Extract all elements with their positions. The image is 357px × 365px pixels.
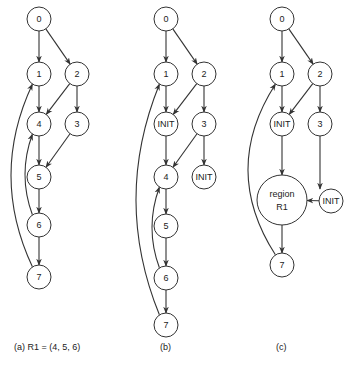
graph-node: 2 <box>308 62 332 86</box>
node-label: 5 <box>163 221 168 231</box>
panel-caption: (a) R1 = (4, 5, 6) <box>14 342 80 352</box>
back-edge-arrow <box>248 84 275 255</box>
graph-node: 0 <box>27 7 51 31</box>
node-circle <box>257 175 307 225</box>
node-label: 7 <box>163 320 168 330</box>
graph-node: 0 <box>154 7 178 31</box>
node-label: 7 <box>36 272 41 282</box>
edge-arrow <box>173 84 196 115</box>
node-label: INIT <box>323 196 341 206</box>
node-label: 0 <box>279 14 284 24</box>
edge-arrow <box>173 134 197 167</box>
panel-c-graph: 012INIT3regionR1INIT7(c) <box>248 7 343 352</box>
graph-node: 7 <box>27 265 51 289</box>
node-label: 0 <box>163 14 168 24</box>
panel-a-graph: 01243567(a) R1 = (4, 5, 6) <box>11 7 89 352</box>
node-label: INIT <box>158 119 176 129</box>
graph-node: INIT <box>154 112 178 136</box>
graph-node: 2 <box>65 62 89 86</box>
graph-node: 7 <box>270 253 294 277</box>
graph-node: 3 <box>65 112 89 136</box>
graph-node: 1 <box>270 62 294 86</box>
node-label: 4 <box>163 172 168 182</box>
graph-node: 6 <box>27 213 51 237</box>
node-label: INIT <box>196 172 214 182</box>
graph-node: INIT <box>192 165 216 189</box>
graph-node: 5 <box>154 214 178 238</box>
graph-node: 7 <box>154 313 178 337</box>
node-label: 4 <box>36 119 41 129</box>
panel-b-graph: 012INIT34INIT567(b) <box>136 7 216 352</box>
graph-node: 3 <box>308 112 332 136</box>
node-label: INIT <box>274 119 292 129</box>
node-label: 7 <box>279 260 284 270</box>
node-label: 6 <box>163 273 168 283</box>
node-label: 1 <box>163 69 168 79</box>
edge-arrow <box>289 29 313 64</box>
node-label: region <box>269 189 294 199</box>
graph-node: INIT <box>270 112 294 136</box>
node-label: 2 <box>201 69 206 79</box>
node-label: 3 <box>317 119 322 129</box>
node-label-secondary: R1 <box>276 202 288 212</box>
node-label: 3 <box>201 119 206 129</box>
node-label: 3 <box>74 119 79 129</box>
graph-node: 1 <box>27 62 51 86</box>
graph-node: 1 <box>154 62 178 86</box>
node-label: 2 <box>74 69 79 79</box>
graph-node: 4 <box>154 165 178 189</box>
graph-node: 3 <box>192 112 216 136</box>
graph-node: 6 <box>154 266 178 290</box>
edge-arrow <box>46 84 69 115</box>
edge-arrow <box>173 29 197 64</box>
graph-node: 4 <box>27 112 51 136</box>
edge-arrow <box>289 84 312 115</box>
node-label: 1 <box>36 69 41 79</box>
edge-arrow <box>46 29 70 64</box>
panel-caption: (c) <box>276 342 287 352</box>
node-label: 1 <box>279 69 284 79</box>
graph-node: regionR1 <box>257 175 307 225</box>
node-label: 2 <box>317 69 322 79</box>
node-label: 5 <box>36 172 41 182</box>
edge-arrow <box>46 134 70 167</box>
graph-node: 5 <box>27 165 51 189</box>
panel-caption: (b) <box>160 342 171 352</box>
graph-node: 0 <box>270 7 294 31</box>
graph-node: 2 <box>192 62 216 86</box>
flow-graph-figure: 01243567(a) R1 = (4, 5, 6) 012INIT34INIT… <box>0 0 357 365</box>
node-label: 6 <box>36 220 41 230</box>
graph-node: INIT <box>319 189 343 213</box>
node-label: 0 <box>36 14 41 24</box>
